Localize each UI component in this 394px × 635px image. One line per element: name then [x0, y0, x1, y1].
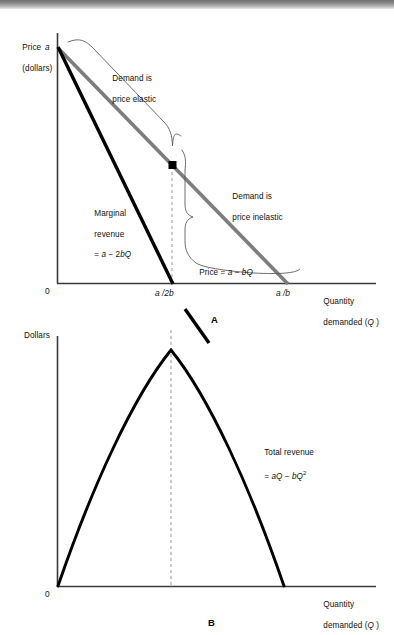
panel-a-x-axis-label-line2: demanded (Q )	[323, 318, 379, 327]
panel-a-letter: A	[211, 314, 218, 325]
annotation-marginal-revenue: Marginal revenue = a − 2bQ	[85, 199, 131, 270]
panel-b-graphics	[57, 330, 376, 587]
annotation-total-revenue-line2: = aQ − bQ2	[264, 472, 306, 481]
panel-a-origin-label: 0	[45, 286, 50, 296]
panel-b-origin-label: 0	[45, 589, 50, 599]
panel-a-y-axis-label: Price (dollars)	[13, 33, 52, 84]
unit-elastic-point-marker	[169, 161, 177, 169]
panel-b-letter: B	[208, 617, 215, 628]
panel-a-x-tick-midpoint: a /2b	[155, 288, 174, 298]
annotation-total-revenue: Total revenue = aQ − bQ2	[255, 438, 314, 493]
panel-b-x-axis-label: Quantity demanded (Q )	[314, 590, 379, 635]
annotation-price-equation-text: Price = a − bQ	[199, 268, 253, 277]
panel-b-x-axis-label-line1: Quantity	[323, 600, 354, 609]
annotation-marginal-revenue-line2: revenue	[94, 230, 124, 239]
panel-a-y-axis-label-line2: (dollars)	[22, 64, 52, 73]
panel-a-y-intercept-label: a	[45, 43, 50, 53]
panel-a-x-tick-max: a /b	[276, 288, 290, 298]
annotation-demand-inelastic-line1: Demand is	[232, 192, 272, 201]
annotation-total-revenue-line1: Total revenue	[264, 448, 314, 457]
annotation-demand-elastic: Demand is price elastic	[103, 64, 156, 115]
annotation-price-equation: Price = a − bQ	[190, 258, 253, 289]
panel-a-y-axis-label-line1: Price	[22, 43, 41, 52]
annotation-marginal-revenue-line1: Marginal	[94, 209, 126, 218]
panel-a-x-axis-label: Quantity demanded (Q )	[314, 287, 379, 338]
marginal-revenue-extension	[185, 309, 209, 343]
economics-figure: Price (dollars) a 0 a /2b a /b Quantity …	[0, 0, 394, 635]
annotation-demand-inelastic-line2: price inelastic	[232, 213, 282, 222]
panel-b-x-axis-label-line2: demanded (Q )	[323, 621, 379, 630]
panel-b-y-axis-label: Dollars	[24, 331, 50, 341]
annotation-demand-elastic-line2: price elastic	[112, 95, 156, 104]
annotation-demand-elastic-line1: Demand is	[112, 74, 152, 83]
panel-a-x-axis-label-line1: Quantity	[323, 297, 354, 306]
annotation-demand-inelastic: Demand is price inelastic	[223, 182, 283, 233]
annotation-marginal-revenue-line3: = a − 2bQ	[94, 250, 131, 259]
